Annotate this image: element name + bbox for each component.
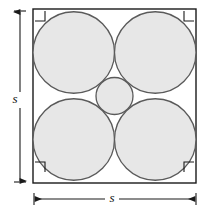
circle-top-right xyxy=(115,12,197,94)
corner-mark-top-right xyxy=(184,11,194,21)
geometry-figure: s s xyxy=(0,0,224,211)
corner-mark-top-left xyxy=(35,11,45,21)
circle-center xyxy=(96,78,133,115)
vertical-dimension-label: s xyxy=(12,91,17,106)
horizontal-dimension-s: s xyxy=(34,190,196,205)
horizontal-dimension-label: s xyxy=(109,190,114,205)
vertical-dimension-s: s xyxy=(12,11,26,182)
circle-top-left xyxy=(33,12,115,94)
figure-canvas: s s xyxy=(0,0,224,211)
